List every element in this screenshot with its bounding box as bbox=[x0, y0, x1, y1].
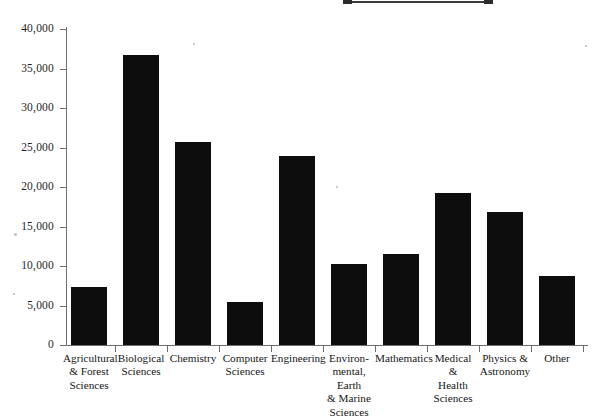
y-axis-tick-label: 20,000 bbox=[0, 180, 54, 192]
x-axis-tick bbox=[375, 345, 376, 352]
bar bbox=[279, 156, 315, 345]
x-axis-tick bbox=[583, 345, 584, 352]
bar bbox=[331, 264, 367, 345]
x-axis-label: Mathematics bbox=[375, 352, 427, 365]
y-axis-tick bbox=[60, 69, 67, 70]
x-axis-label: Chemistry bbox=[167, 352, 219, 365]
x-axis-label: Agricultural & Forest Sciences bbox=[63, 352, 115, 392]
y-axis-tick-label: 25,000 bbox=[0, 141, 54, 153]
x-axis-tick bbox=[167, 345, 168, 352]
x-axis-label: Physics & Astronomy bbox=[479, 352, 531, 379]
y-axis-tick-label: 15,000 bbox=[0, 220, 54, 232]
x-axis-line bbox=[66, 345, 588, 346]
y-axis-tick bbox=[60, 148, 67, 149]
x-axis-label: Other bbox=[531, 352, 583, 365]
x-axis-tick bbox=[323, 345, 324, 352]
bar bbox=[435, 193, 471, 345]
bar bbox=[175, 142, 211, 345]
bar-chart: 05,00010,00015,00020,00025,00030,00035,0… bbox=[0, 0, 603, 417]
y-axis-tick bbox=[60, 29, 67, 30]
bar bbox=[539, 276, 575, 345]
x-axis-label: Environ- mental, Earth & Marine Sciences bbox=[323, 352, 375, 417]
y-axis-tick bbox=[60, 187, 67, 188]
x-axis-label: Engineering bbox=[271, 352, 323, 365]
x-axis-tick bbox=[115, 345, 116, 352]
x-axis-label: Biological Sciences bbox=[115, 352, 167, 379]
y-axis-tick bbox=[60, 227, 67, 228]
x-axis-tick bbox=[271, 345, 272, 352]
bar bbox=[71, 287, 107, 345]
y-axis-tick bbox=[60, 306, 67, 307]
bar bbox=[487, 212, 523, 345]
y-axis-tick-label: 10,000 bbox=[0, 259, 54, 271]
y-axis-tick bbox=[60, 345, 67, 346]
x-axis-tick bbox=[219, 345, 220, 352]
bar bbox=[227, 302, 263, 345]
y-axis-tick-label: 0 bbox=[0, 338, 54, 350]
x-axis-label: Medical & Health Sciences bbox=[427, 352, 479, 406]
bar bbox=[123, 55, 159, 345]
x-axis-tick bbox=[531, 345, 532, 352]
x-axis-tick bbox=[427, 345, 428, 352]
y-axis-tick-label: 30,000 bbox=[0, 101, 54, 113]
bar bbox=[383, 254, 419, 345]
y-axis-tick-label: 35,000 bbox=[0, 62, 54, 74]
y-axis-tick bbox=[60, 108, 67, 109]
x-axis-label: Computer Sciences bbox=[219, 352, 271, 379]
y-axis-tick bbox=[60, 266, 67, 267]
y-axis-tick-label: 40,000 bbox=[0, 22, 54, 34]
y-axis-tick-label: 5,000 bbox=[0, 299, 54, 311]
x-axis-tick bbox=[479, 345, 480, 352]
